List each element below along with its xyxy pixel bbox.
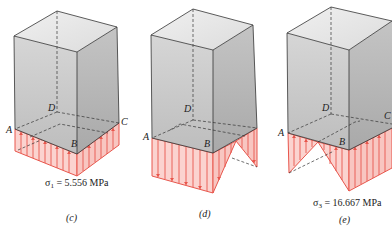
corner-label-b: B [71, 139, 77, 149]
stress-value-sigma1: σ1 = 5.556 MPa [45, 178, 108, 190]
figure-caption-d: (d) [199, 209, 211, 219]
corner-label-c: C [384, 111, 391, 121]
corner-label-a: A [6, 125, 12, 135]
corner-label-a: A [143, 132, 149, 142]
figure-c [14, 11, 119, 176]
corner-label-c: C [121, 117, 128, 127]
figure-d [151, 9, 257, 193]
corner-label-d: D [48, 103, 55, 113]
corner-label-d: D [184, 104, 191, 114]
figure-caption-c: (c) [66, 213, 77, 223]
stress-value-sigma3: σ3 = 16.667 MPa [313, 198, 381, 210]
corner-label-a: A [278, 128, 284, 138]
figure-e [287, 7, 392, 191]
corner-label-d: D [322, 103, 329, 113]
corner-label-b: B [339, 137, 345, 147]
figure-caption-e: (e) [339, 215, 350, 225]
corner-label-b: B [204, 139, 210, 149]
